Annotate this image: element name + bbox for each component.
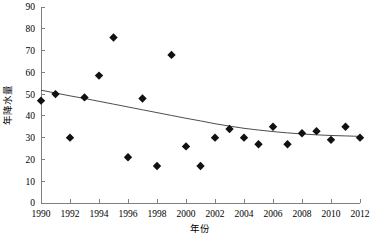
x-tick-label: 2006 [264,209,283,219]
y-tick-label: 50 [26,90,36,100]
x-tick-label: 1998 [148,209,167,219]
data-point-marker [298,129,306,137]
x-tick-label: 1996 [119,209,138,219]
axis-lines [41,7,360,203]
data-point-marker [66,133,74,141]
precipitation-scatter-chart: 0102030405060708090 19901992199419961998… [0,0,377,250]
y-tick-label: 90 [26,2,36,12]
y-tick-label: 0 [30,198,35,208]
data-point-marker [356,133,364,141]
y-tick-label: 80 [26,24,36,34]
y-tick-label: 30 [26,133,36,143]
x-axis-title: 年份 [190,223,210,234]
data-point-marker [95,71,103,79]
trend-line [41,90,360,136]
x-tick-label: 2000 [177,209,196,219]
x-tick-label: 1990 [32,209,51,219]
data-point-marker [240,133,248,141]
data-point-marker [80,93,88,101]
x-tick-label: 2004 [235,209,254,219]
chart-container: 0102030405060708090 19901992199419961998… [0,0,377,250]
x-tick-label: 2010 [322,209,341,219]
y-tick-label: 10 [26,177,36,187]
x-tick-label: 2008 [293,209,312,219]
data-point-marker [167,51,175,59]
y-tick-label: 70 [26,46,36,56]
data-point-marker [153,162,161,170]
data-point-marker [109,33,117,41]
data-point-marker [182,142,190,150]
x-tick-label: 1994 [90,209,109,219]
data-point-marker [269,123,277,131]
y-axis-tick-labels: 0102030405060708090 [26,2,36,208]
x-tick-label: 1992 [61,209,80,219]
data-point-marker [124,153,132,161]
y-tick-label: 60 [26,68,36,78]
y-tick-label: 40 [26,111,36,121]
x-axis-tick-labels: 1990199219941996199820002002200420062008… [32,209,370,219]
data-point-marker [254,140,262,148]
data-point-marker [196,162,204,170]
data-point-marker [51,90,59,98]
x-tick-label: 2012 [351,209,370,219]
data-point-markers [37,33,364,170]
data-point-marker [341,123,349,131]
data-point-marker [37,96,45,104]
x-axis-ticks [41,199,360,203]
y-axis-ticks [41,7,45,203]
y-tick-label: 20 [26,155,36,165]
data-point-marker [211,133,219,141]
data-point-marker [138,94,146,102]
x-tick-label: 2002 [206,209,225,219]
data-point-marker [283,140,291,148]
data-point-marker [327,136,335,144]
y-axis-title: 年降水量 [2,85,13,125]
data-point-marker [312,127,320,135]
